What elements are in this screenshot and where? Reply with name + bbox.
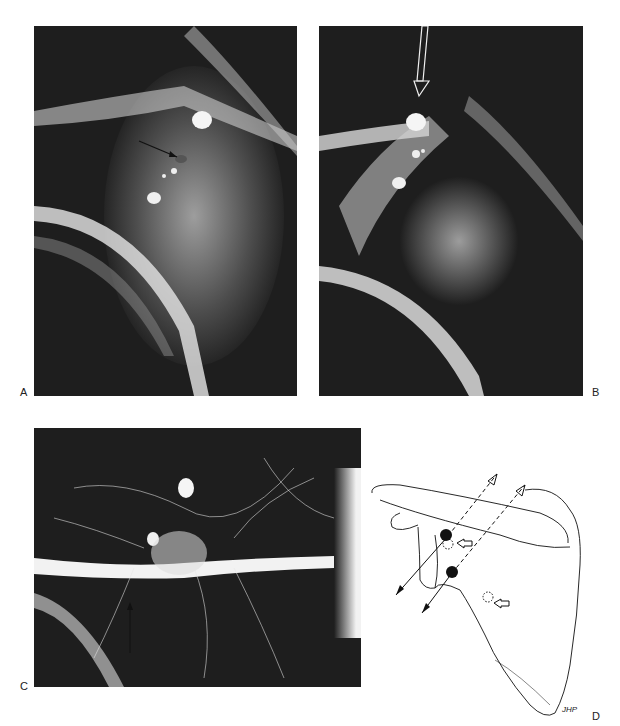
trajectory-line-1 <box>396 536 448 595</box>
panel-c-drawing <box>34 428 361 687</box>
panel-c-angiogram <box>34 428 361 687</box>
panel-label-d: D <box>592 710 600 722</box>
panel-a-drawing <box>34 26 297 396</box>
panel-d-scapula-diagram: JHP <box>360 455 620 726</box>
hollow-arrow <box>414 26 429 96</box>
target-circle <box>483 592 493 602</box>
open-arrow-icon <box>457 539 472 548</box>
panel-label-c: C <box>20 680 28 692</box>
open-arrow-icon <box>494 599 509 608</box>
panel-label-a: A <box>20 386 27 398</box>
entry-dot <box>446 566 458 578</box>
panel-b-radiograph <box>319 26 583 396</box>
panel-b-drawing <box>319 26 583 396</box>
panel-a-radiograph <box>34 26 297 396</box>
panel-d-drawing <box>360 455 620 726</box>
artist-signature: JHP <box>562 705 577 714</box>
panel-label-b: B <box>592 386 599 398</box>
